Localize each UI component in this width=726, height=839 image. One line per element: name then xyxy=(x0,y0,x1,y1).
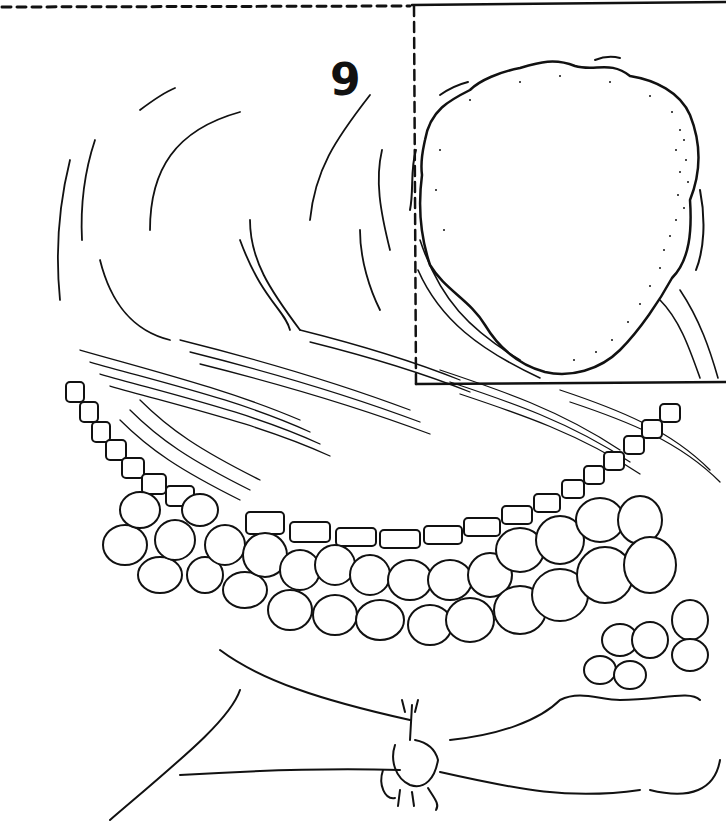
upper-tissue xyxy=(58,88,390,340)
illustration-canvas xyxy=(0,0,726,839)
illustration xyxy=(0,0,726,839)
rounded-cell-layer xyxy=(103,492,708,689)
frame-lines xyxy=(2,2,726,384)
stipple xyxy=(435,75,689,361)
small-appendage xyxy=(381,700,438,810)
figure-number: 9 xyxy=(330,58,361,102)
inset-body xyxy=(410,57,718,378)
hatched-band xyxy=(80,330,720,500)
